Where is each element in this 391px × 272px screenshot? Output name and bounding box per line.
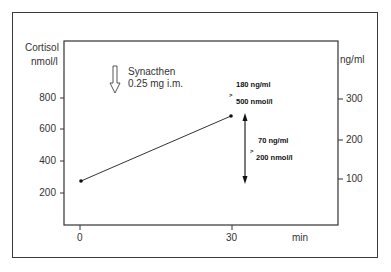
x-tick-label: 0 xyxy=(77,232,83,244)
plot-area-frame xyxy=(64,41,338,225)
data-point xyxy=(79,179,83,183)
peak-threshold-gt: > xyxy=(229,89,233,101)
left-tick-label: 600 xyxy=(26,123,56,135)
increment-threshold-gt: > xyxy=(250,145,254,157)
arrow-up-head-icon xyxy=(243,113,248,121)
peak-threshold-ngml: 180 ng/ml xyxy=(236,79,271,91)
chart-plot xyxy=(0,0,391,272)
x-axis-unit: min xyxy=(292,232,308,244)
stimulus-label-line1: Synacthen xyxy=(128,66,175,78)
down-arrow-icon xyxy=(110,66,120,93)
left-axis-title-line2: nmol/l xyxy=(31,56,58,68)
data-point xyxy=(229,114,233,118)
right-axis-title: ng/ml xyxy=(340,54,364,66)
cortisol-line xyxy=(81,116,231,181)
increment-threshold-nmoll: 200 nmol/l xyxy=(256,152,293,164)
right-tick-label: 300 xyxy=(346,93,363,105)
left-tick-label: 200 xyxy=(26,187,56,199)
left-tick-label: 400 xyxy=(26,155,56,167)
stimulus-label-line2: 0.25 mg i.m. xyxy=(128,78,183,90)
arrow-down-head-icon xyxy=(243,176,248,184)
x-ticks xyxy=(80,225,232,230)
peak-threshold-nmoll: 500 nmol/l xyxy=(236,96,273,108)
right-tick-label: 100 xyxy=(346,173,363,185)
x-tick-label: 30 xyxy=(226,232,237,244)
left-tick-label: 800 xyxy=(26,92,56,104)
left-axis-title-line1: Cortisol xyxy=(25,42,59,54)
right-y-ticks xyxy=(338,99,343,179)
increment-threshold-ngml: 70 ng/ml xyxy=(258,135,288,147)
right-tick-label: 200 xyxy=(346,134,363,146)
